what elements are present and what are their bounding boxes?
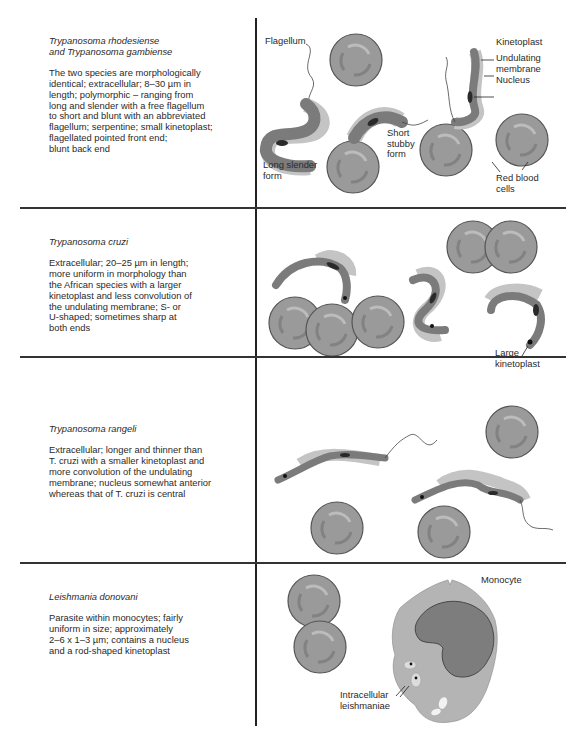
red-blood-cell	[311, 502, 363, 554]
red-blood-cell	[294, 621, 346, 673]
row-4-text: Leishmania donovani Parasite within mono…	[49, 592, 249, 657]
figure-cruzi	[258, 209, 586, 356]
label-flagellum: Flagellum	[265, 36, 306, 47]
species-description-donovani: Parasite within monocytes; fairly unifor…	[49, 613, 249, 657]
monocyte	[392, 580, 497, 723]
red-blood-cell	[327, 141, 379, 193]
rangeli-trypanosome-1	[278, 434, 437, 480]
row-1-text: Trypanosoma rhodesiense and Trypanosoma …	[49, 36, 249, 155]
red-blood-cell	[485, 221, 537, 273]
red-blood-cell	[352, 296, 404, 348]
red-blood-cell	[496, 114, 548, 166]
red-blood-cell	[306, 304, 358, 356]
species-title-rhodesiense-gambiense: Trypanosoma rhodesiense and Trypanosoma …	[49, 36, 249, 58]
label-undulating-membrane: Undulating membrane	[496, 53, 541, 74]
species-title-donovani: Leishmania donovani	[49, 592, 249, 603]
species-title-cruzi: Trypanosoma cruzi	[49, 237, 249, 248]
red-blood-cell	[288, 575, 340, 627]
label-intracellular-leishmaniae: Intracellular leishmaniae	[340, 690, 390, 711]
cruzi-c-shaped-trypanosome	[276, 256, 350, 300]
cruzi-s-shaped-trypanosome	[413, 273, 445, 336]
red-blood-cell	[330, 34, 382, 86]
long-slender-trypanosome	[266, 44, 323, 168]
red-blood-cell	[418, 506, 470, 558]
species-description-rhodesiense-gambiense: The two species are morphologically iden…	[49, 68, 249, 155]
species-description-rangeli: Extracellular; longer and thinner than T…	[49, 445, 249, 500]
red-blood-cell	[486, 406, 538, 458]
label-kinetoplast: Kinetoplast	[496, 37, 542, 48]
column-divider	[255, 18, 257, 726]
trypanosome-labeled	[446, 52, 494, 123]
figure-rangeli	[258, 358, 586, 562]
label-red-blood-cells: Red blood cells	[496, 173, 539, 194]
row-2-text: Trypanosoma cruzi Extracellular; 20–25 µ…	[49, 237, 249, 334]
row-3-text: Trypanosoma rangeli Extracellular; longe…	[49, 424, 249, 499]
label-monocyte: Monocyte	[481, 575, 522, 586]
label-long-slender-form: Long slender form	[263, 160, 317, 181]
label-nucleus: Nucleus	[496, 75, 530, 86]
species-title-rangeli: Trypanosoma rangeli	[49, 424, 249, 435]
figure-donovani	[258, 564, 586, 726]
rbc-pointer	[492, 162, 500, 172]
species-description-cruzi: Extracellular; 20–25 µm in length; more …	[49, 258, 249, 334]
red-blood-cell	[420, 124, 472, 176]
label-short-stubby-form: Short stubby form	[387, 128, 415, 160]
